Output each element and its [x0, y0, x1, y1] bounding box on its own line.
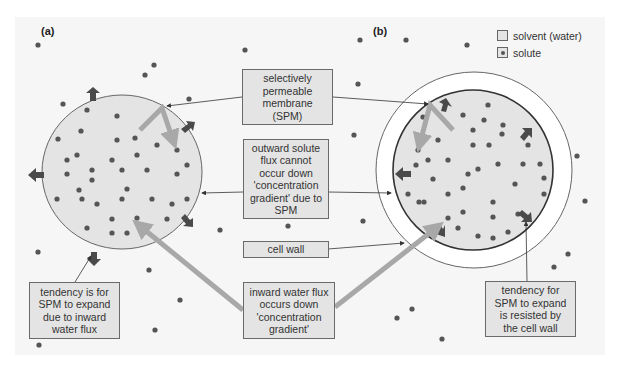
solvent-swatch-icon: [497, 30, 508, 41]
label-tendency-b: tendency for SPM to expand is resisted b…: [485, 281, 576, 337]
label-spm: selectively permeable membrane (SPM): [242, 69, 333, 125]
label-cell-wall: cell wall: [243, 241, 329, 258]
membrane-circle: [393, 90, 553, 250]
label-tendency-a: tendency is for SPM to expand due to inw…: [29, 282, 120, 339]
legend-label: solute: [513, 47, 541, 59]
solute-dot-icon: [497, 47, 508, 58]
label-outward-solute-flux: outward solute flux cannot occur down 'c…: [243, 139, 329, 219]
panel-label-a: (a): [41, 25, 54, 37]
legend: solvent (water) solute: [497, 27, 582, 61]
legend-item-solute: solute: [497, 44, 582, 61]
legend-label: solvent (water): [513, 30, 582, 42]
legend-item-solvent: solvent (water): [497, 27, 582, 44]
inward-water-arrow-a: [140, 226, 243, 310]
label-inward-water-flux: inward water flux occurs down 'concentra…: [243, 282, 335, 339]
cell-b: [376, 72, 572, 268]
inward-water-arrow-b: [335, 228, 436, 307]
panel-label-b: (b): [373, 25, 387, 37]
